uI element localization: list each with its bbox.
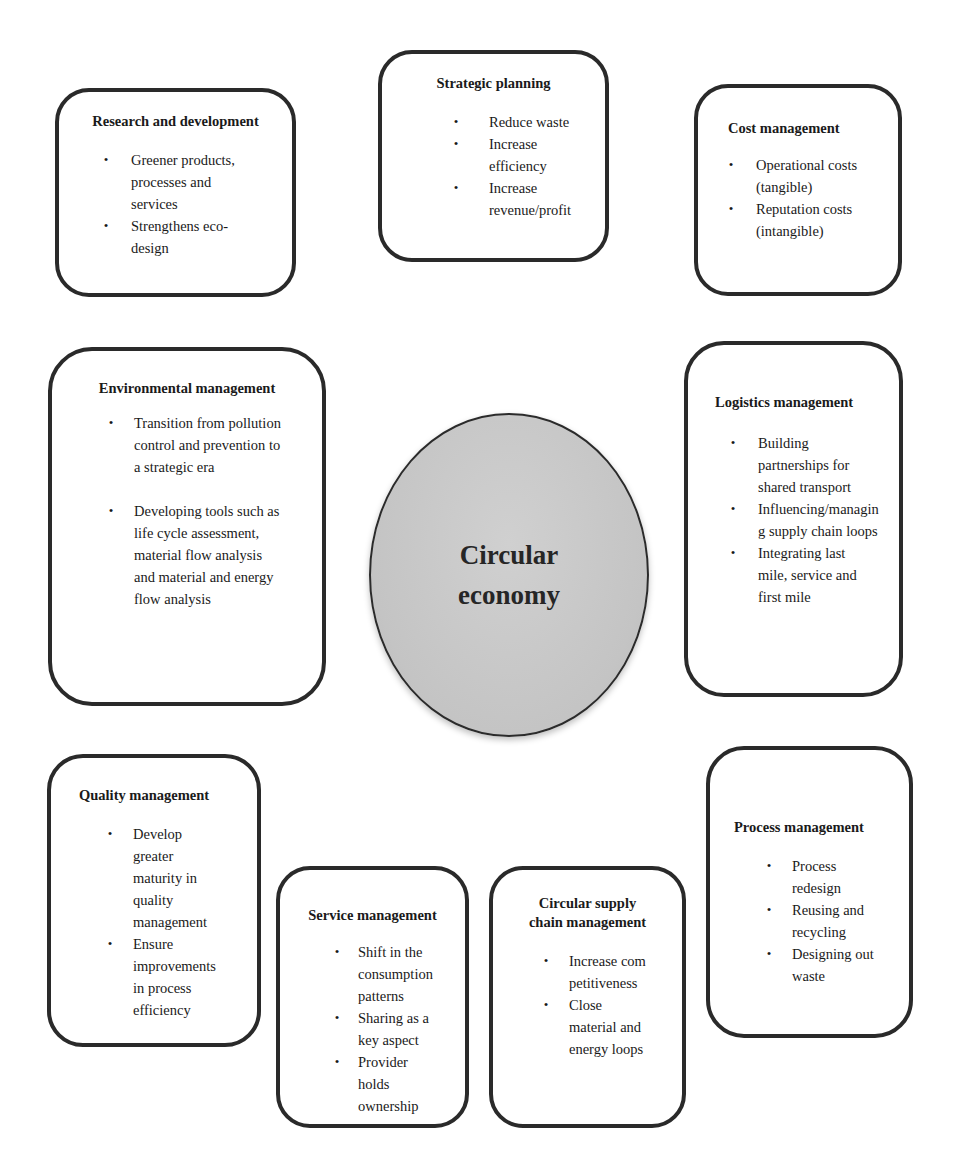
logistics-management-box: Logistics management •Building partnersh…: [684, 341, 903, 697]
list-item: •Influencing/managing supply chain loops: [758, 498, 888, 542]
bullet-icon: •: [106, 412, 116, 434]
bullet-icon: •: [101, 215, 111, 237]
bullet-icon: •: [451, 111, 461, 133]
list-item: •Greener products, processes and service…: [131, 149, 251, 215]
quality-management-list: •Develop greater maturity in quality man…: [133, 823, 233, 1021]
bullet-icon: •: [332, 1051, 342, 1073]
cost-management-box: Cost management •Operational costs (tang…: [694, 84, 902, 296]
environmental-management-box: Environmental management •Transition fro…: [48, 347, 326, 706]
circular-economy-center: Circular economy: [369, 413, 649, 737]
environmental-management-list: •Transition from pollution control and p…: [134, 412, 284, 610]
service-management-title: Service management: [280, 906, 465, 925]
bullet-icon: •: [728, 432, 738, 454]
service-management-box: Service management •Shift in the consump…: [276, 866, 469, 1128]
list-item: •Strengthens eco-design: [131, 215, 251, 259]
circular-economy-label: Circular economy: [419, 535, 599, 615]
list-item: •Developing tools such as life cycle ass…: [134, 500, 284, 610]
bullet-icon: •: [101, 149, 111, 171]
circular-supply-chain-list: •Increase competitiveness •Close materia…: [569, 950, 659, 1060]
bullet-icon: •: [764, 855, 774, 877]
circular-supply-chain-title: Circular supply chain management: [493, 894, 682, 932]
process-management-list: •Process redesign •Reusing and recycling…: [792, 855, 897, 987]
bullet-icon: •: [106, 500, 116, 522]
list-item: •Reusing and recycling: [792, 899, 897, 943]
strategic-planning-title: Strategic planning: [382, 74, 605, 93]
list-item: •Develop greater maturity in quality man…: [133, 823, 233, 933]
bullet-icon: •: [764, 899, 774, 921]
bullet-icon: •: [451, 133, 461, 155]
strategic-planning-box: Strategic planning •Reduce waste •Increa…: [378, 50, 609, 262]
bullet-icon: •: [105, 823, 115, 845]
service-management-list: •Shift in the consumption patterns •Shar…: [358, 941, 458, 1117]
bullet-icon: •: [105, 933, 115, 955]
list-item: •Operational costs (tangible): [756, 154, 886, 198]
process-management-title: Process management: [710, 818, 909, 837]
list-item: •Increase revenue/profit: [489, 177, 601, 221]
circular-supply-chain-box: Circular supply chain management •Increa…: [489, 866, 686, 1128]
list-item: •Sharing as a key aspect: [358, 1007, 458, 1051]
list-item: •Close material and energy loops: [569, 994, 659, 1060]
bullet-icon: •: [541, 950, 551, 972]
list-item: •Designing out waste: [792, 943, 897, 987]
research-development-box: Research and development •Greener produc…: [55, 88, 296, 297]
bullet-icon: •: [332, 1007, 342, 1029]
list-item: •Building partnerships for shared transp…: [758, 432, 888, 498]
list-item: •Ensure improvements in process efficien…: [133, 933, 233, 1021]
bullet-icon: •: [541, 994, 551, 1016]
list-item: •Reduce waste: [489, 111, 601, 133]
environmental-management-title: Environmental management: [52, 379, 322, 398]
list-item: •Reputation costs (intangible): [756, 198, 886, 242]
bullet-icon: •: [728, 498, 738, 520]
bullet-icon: •: [332, 941, 342, 963]
list-item: •Process redesign: [792, 855, 897, 899]
bullet-icon: •: [451, 177, 461, 199]
bullet-icon: •: [726, 198, 736, 220]
research-development-list: •Greener products, processes and service…: [131, 149, 251, 259]
logistics-management-title: Logistics management: [688, 393, 899, 412]
quality-management-box: Quality management •Develop greater matu…: [47, 754, 261, 1047]
bullet-icon: •: [728, 542, 738, 564]
strategic-planning-list: •Reduce waste •Increase efficiency •Incr…: [489, 111, 601, 221]
quality-management-title: Quality management: [51, 786, 257, 805]
cost-management-list: •Operational costs (tangible) •Reputatio…: [756, 154, 886, 242]
bullet-icon: •: [764, 943, 774, 965]
list-item: •Provider holds ownership: [358, 1051, 458, 1117]
cost-management-title: Cost management: [698, 119, 898, 138]
research-development-title: Research and development: [59, 112, 292, 131]
list-item: •Integrating last mile, service and firs…: [758, 542, 888, 608]
logistics-management-list: •Building partnerships for shared transp…: [758, 432, 888, 608]
list-item: •Transition from pollution control and p…: [134, 412, 284, 478]
process-management-box: Process management •Process redesign •Re…: [706, 746, 913, 1038]
list-item: •Shift in the consumption patterns: [358, 941, 458, 1007]
list-item: •Increase competitiveness: [569, 950, 659, 994]
bullet-icon: •: [726, 154, 736, 176]
list-item: •Increase efficiency: [489, 133, 601, 177]
